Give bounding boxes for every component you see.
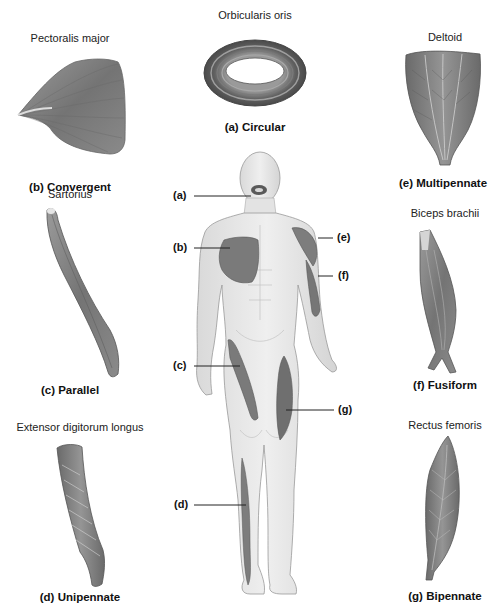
type-label-fusiform: (f) Fusiform [395, 379, 495, 391]
muscle-name-sartorius: Sartorius [15, 188, 125, 200]
diagram-artwork [0, 0, 501, 616]
type-label-parallel: (c) Parallel [15, 384, 125, 396]
pectoralis-major-illustration [18, 59, 125, 154]
muscle-name-biceps-brachii: Biceps brachii [395, 207, 495, 219]
callout-g: (g) [338, 403, 352, 415]
biceps-brachii-illustration [420, 230, 456, 373]
type-label-multipennate: (e) Multipennate [385, 177, 501, 189]
callout-f: (f) [338, 269, 349, 281]
callout-e: (e) [337, 231, 350, 243]
type-label-unipennate: (d) Unipennate [10, 591, 150, 603]
sartorius-illustration [47, 208, 119, 377]
human-body-figure [197, 152, 337, 594]
muscle-name-pectoralis-major: Pectoralis major [10, 32, 130, 44]
muscle-name-deltoid: Deltoid [395, 31, 495, 43]
orbicularis-oris-illustration [204, 40, 306, 106]
muscle-name-orbicularis-oris: Orbicularis oris [195, 9, 315, 21]
extensor-digitorum-longus-illustration [57, 445, 105, 587]
callout-b: (b) [173, 241, 187, 253]
callout-d: (d) [174, 498, 188, 510]
deltoid-illustration [406, 51, 481, 165]
type-label-circular: (a) Circular [195, 121, 315, 133]
rectus-femoris-illustration [426, 436, 460, 580]
callout-a: (a) [173, 189, 186, 201]
callout-c: (c) [173, 359, 186, 371]
muscle-name-rectus-femoris: Rectus femoris [395, 419, 495, 431]
type-label-bipennate: (g) Bipennate [390, 590, 500, 602]
muscle-name-extensor-digitorum-longus: Extensor digitorum longus [0, 421, 160, 433]
